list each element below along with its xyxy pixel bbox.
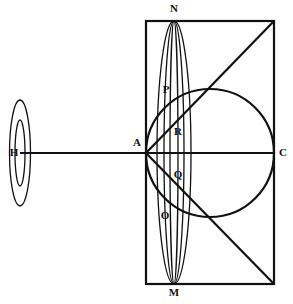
point-label-O: O [161,209,170,221]
point-label-A: A [133,136,141,148]
point-label-C: C [279,146,287,158]
point-label-N: N [170,2,178,14]
geometry-figure: N P R A Q O M H C [0,0,293,304]
point-label-P: P [163,83,170,95]
diagram-canvas: N P R A Q O M H C [0,0,293,304]
point-label-R: R [174,125,183,137]
point-label-H: H [10,146,19,158]
point-label-Q: Q [174,168,183,180]
point-label-M: M [169,286,180,298]
